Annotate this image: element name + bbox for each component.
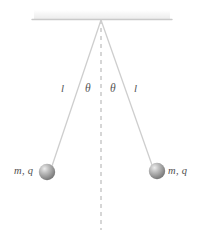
mass-charge-label-left: m, q — [14, 166, 33, 177]
physics-diagram-canvas: l θ θ l m, q m, q — [0, 0, 200, 233]
pendulum-diagram-svg — [0, 0, 200, 233]
ceiling-hatching — [34, 10, 170, 19]
string-left — [52, 20, 101, 166]
bob-left — [39, 164, 55, 180]
string-length-label-right: l — [134, 83, 137, 94]
mass-charge-label-right: m, q — [168, 166, 187, 177]
string-length-label-left: l — [61, 83, 64, 94]
bob-right — [149, 163, 165, 179]
angle-label-left: θ — [85, 83, 91, 95]
string-right — [101, 20, 152, 165]
angle-label-right: θ — [110, 83, 116, 95]
